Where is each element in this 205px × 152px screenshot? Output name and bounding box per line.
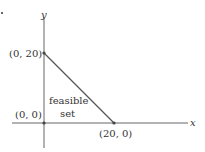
point-label-0-20: (0, 20): [9, 48, 42, 59]
vertex-20-0: [112, 121, 115, 124]
feasible-set-diagram: y x (0, 20) (0, 0) (20, 0) feasible set: [0, 0, 205, 152]
vertex-origin: [42, 121, 45, 124]
vertex-0-20: [42, 51, 45, 54]
region-label-line1: feasible: [49, 95, 89, 106]
point-label-20-0: (20, 0): [99, 128, 132, 139]
y-axis-label: y: [40, 9, 47, 20]
point-label-origin: (0, 0): [15, 109, 42, 120]
constraint-edge: [44, 53, 114, 123]
x-axis-label: x: [190, 117, 196, 128]
region-label-line2: set: [60, 108, 75, 119]
stray-mark: [1, 12, 3, 14]
